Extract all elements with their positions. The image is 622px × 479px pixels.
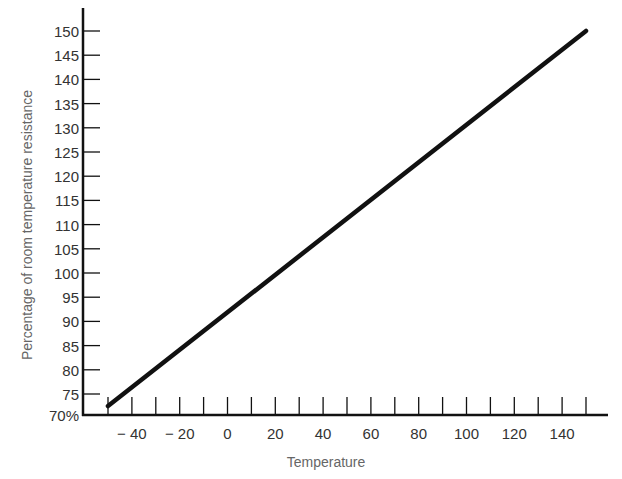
x-tick-label: 20 xyxy=(267,425,284,442)
x-tick-label: 140 xyxy=(550,425,575,442)
x-tick-label: 100 xyxy=(454,425,479,442)
data-series xyxy=(108,31,586,406)
y-tick-label: 135 xyxy=(54,96,79,113)
y-tick-label: 80 xyxy=(62,362,79,379)
y-tick-label: 115 xyxy=(55,192,79,209)
y-tick-label: 90 xyxy=(62,313,79,330)
y-tick-label: 95 xyxy=(62,289,79,306)
y-tick-label: 100 xyxy=(54,265,79,282)
y-axis-title: Percentage of room temperature resistanc… xyxy=(19,90,35,360)
y-tick-label: 75 xyxy=(62,386,79,403)
x-axis-title: Temperature xyxy=(287,454,366,470)
y-axis: 70%7580859095100105110115120125130135140… xyxy=(49,8,100,424)
y-tick-label: 70% xyxy=(49,407,79,424)
y-tick-label: 140 xyxy=(54,71,79,88)
x-tick-label: 0 xyxy=(223,425,231,442)
line-chart: 70%7580859095100105110115120125130135140… xyxy=(0,0,622,479)
y-tick-label: 150 xyxy=(54,23,79,40)
x-tick-label: 80 xyxy=(410,425,427,442)
y-tick-label: 85 xyxy=(62,338,79,355)
series-line xyxy=(108,31,586,406)
y-tick-label: 105 xyxy=(54,241,79,258)
y-tick-label: 130 xyxy=(54,120,79,137)
x-tick-label: − 20 xyxy=(165,425,195,442)
x-tick-label: − 40 xyxy=(117,425,147,442)
y-tick-label: 120 xyxy=(54,168,79,185)
x-tick-label: 60 xyxy=(363,425,380,442)
y-tick-label: 145 xyxy=(54,47,79,64)
x-tick-label: 120 xyxy=(502,425,527,442)
y-tick-label: 125 xyxy=(54,144,79,161)
y-tick-label: 110 xyxy=(55,217,79,234)
x-tick-label: 40 xyxy=(315,425,332,442)
x-axis: − 40− 20020406080100120140 xyxy=(82,397,608,442)
